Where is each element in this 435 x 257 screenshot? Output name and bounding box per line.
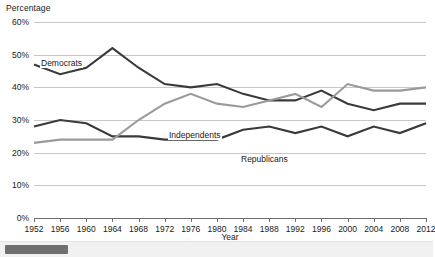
x-tick-mark-1960 [86, 218, 87, 222]
series-lines [34, 22, 426, 218]
y-tick-label-50: 50% [12, 50, 29, 60]
x-tick-mark-1972 [165, 218, 166, 222]
x-tick-mark-1984 [243, 218, 244, 222]
plot-area: 0%10%20%30%40%50%60% Democrats Independe… [34, 22, 426, 218]
x-tick-mark-1992 [295, 218, 296, 222]
y-tick-label-0: 0% [17, 213, 29, 223]
x-tick-mark-1976 [191, 218, 192, 222]
x-tick-mark-2012 [426, 218, 427, 222]
x-tick-mark-1988 [269, 218, 270, 222]
x-tick-mark-1980 [217, 218, 218, 222]
x-axis-line [34, 218, 426, 219]
x-tick-mark-1996 [321, 218, 322, 222]
series-line-democrats [34, 48, 426, 110]
series-label-republicans: Republicans [240, 154, 289, 164]
y-tick-label-40: 40% [12, 82, 29, 92]
horizontal-scrollbar[interactable] [0, 241, 433, 257]
chart-figure: Percentage 0%10%20%30%40%50%60% Democrat… [0, 0, 433, 242]
x-tick-mark-1968 [139, 218, 140, 222]
x-tick-mark-1952 [34, 218, 35, 222]
y-tick-label-10: 10% [12, 180, 29, 190]
y-tick-label-30: 30% [12, 115, 29, 125]
x-tick-mark-2008 [400, 218, 401, 222]
scrollbar-thumb[interactable] [5, 245, 68, 254]
x-tick-mark-1964 [112, 218, 113, 222]
y-tick-label-60: 60% [12, 17, 29, 27]
x-tick-mark-1956 [60, 218, 61, 222]
series-label-independents: Independents [168, 130, 222, 140]
x-tick-mark-2000 [348, 218, 349, 222]
series-label-democrats: Democrats [40, 58, 83, 68]
y-tick-label-20: 20% [12, 148, 29, 158]
series-line-republicans [34, 120, 426, 140]
y-axis-title: Percentage [6, 3, 50, 13]
x-tick-mark-2004 [374, 218, 375, 222]
